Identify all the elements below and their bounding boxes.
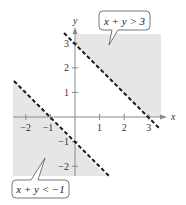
- y-tick-label: 2: [64, 62, 69, 73]
- x-tick-label: −2: [20, 122, 31, 133]
- y-axis-label: y: [72, 15, 78, 26]
- x-tick-label: −1: [43, 122, 54, 133]
- x-axis-arrow-icon: [160, 115, 167, 120]
- y-axis-arrow-icon: [73, 27, 78, 34]
- callout-upper-text: x + y > 3: [103, 15, 146, 27]
- x-axis-label: x: [170, 111, 176, 122]
- y-tick-label: 1: [64, 87, 69, 98]
- y-tick-label: −1: [58, 136, 69, 147]
- y-tick-label: −2: [58, 161, 69, 172]
- x-tick-label: 1: [97, 122, 102, 133]
- shaded-region-upper: [75, 34, 161, 117]
- callout-lower-text: x + y < −1: [15, 183, 65, 195]
- x-tick-label: 3: [146, 122, 151, 133]
- inequality-graph: −2 −1 1 2 3 3 2 1 −1 −2 x y x + y > 3 x …: [0, 0, 186, 205]
- x-tick-label: 2: [122, 122, 127, 133]
- y-tick-label: 3: [64, 38, 69, 49]
